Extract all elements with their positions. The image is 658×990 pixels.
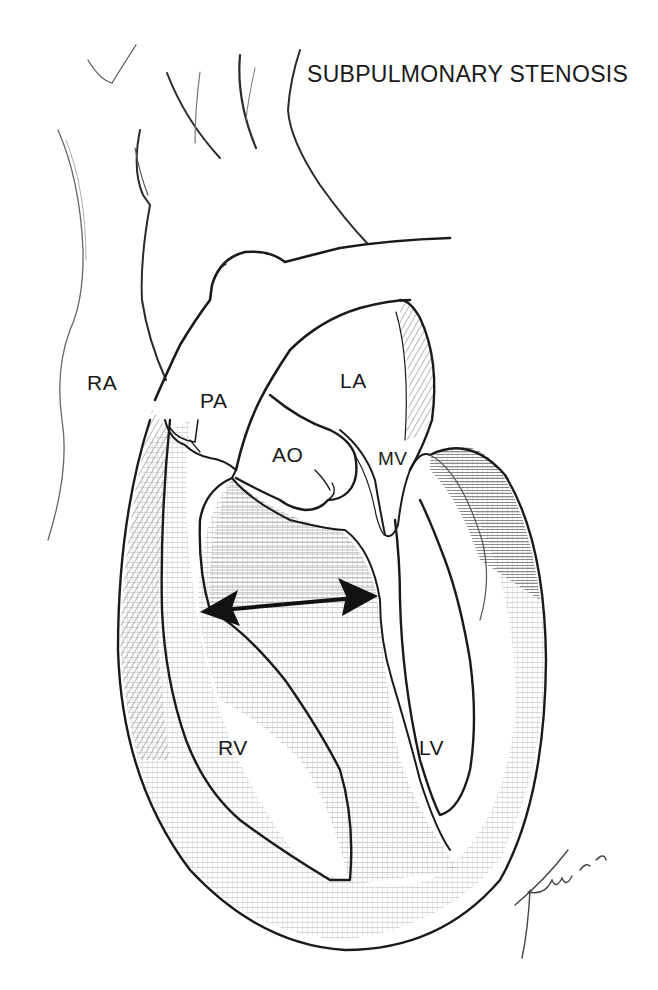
label-la: LA: [340, 370, 367, 391]
lv-freewall-hatching: [430, 446, 540, 600]
upper-vessel-sketch: [48, 45, 367, 540]
label-rv: RV: [218, 737, 248, 758]
label-lv: LV: [419, 737, 444, 758]
heart-drawing: [0, 0, 658, 990]
label-ao: AO: [272, 444, 303, 465]
heart-illustration: SUBPULMONARY STENOSIS RA PA LA AO MV RV …: [0, 0, 658, 990]
label-pa: PA: [200, 390, 227, 411]
label-mv: MV: [378, 449, 408, 468]
artist-signature: [515, 850, 606, 958]
label-ra: RA: [87, 372, 117, 393]
figure-title: SUBPULMONARY STENOSIS: [307, 63, 628, 86]
